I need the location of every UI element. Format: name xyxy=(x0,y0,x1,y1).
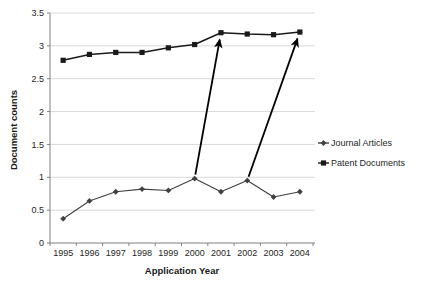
y-tick-label: 1.5 xyxy=(31,140,44,150)
y-tick-label: 3 xyxy=(39,41,44,51)
data-point-marker xyxy=(87,52,92,57)
x-tick-label: 1995 xyxy=(53,248,73,258)
data-point-marker xyxy=(61,58,66,63)
x-axis-title: Application Year xyxy=(145,265,220,276)
data-point-marker xyxy=(245,31,250,36)
data-point-marker xyxy=(271,32,276,37)
chart-canvas: 00.511.522.533.5 19951996199719981999200… xyxy=(0,0,424,292)
data-point-marker xyxy=(218,30,223,35)
data-point-marker xyxy=(297,29,302,34)
y-axis-title: Document counts xyxy=(8,90,19,170)
x-tick-label: 2002 xyxy=(237,248,257,258)
data-point-marker xyxy=(113,50,118,55)
x-tick-label: 1999 xyxy=(158,248,178,258)
y-tick-label: 3.5 xyxy=(31,8,44,18)
data-point-marker xyxy=(192,42,197,47)
data-point-marker xyxy=(166,45,171,50)
y-tick-label: 1 xyxy=(39,172,44,182)
x-tick-label: 2001 xyxy=(211,248,231,258)
y-tick-label: 2 xyxy=(39,107,44,117)
y-tick-label: 2.5 xyxy=(31,74,44,84)
x-tick-label: 1997 xyxy=(106,248,126,258)
x-tick-label: 2003 xyxy=(264,248,284,258)
x-tick-label: 1998 xyxy=(132,248,152,258)
x-tick-label: 2004 xyxy=(290,248,310,258)
data-point-marker xyxy=(139,50,144,55)
legend-label: Journal Articles xyxy=(331,138,393,148)
legend-label: Patent Documents xyxy=(331,158,406,168)
data-point-marker xyxy=(321,160,326,165)
line-chart: 00.511.522.533.5 19951996199719981999200… xyxy=(0,0,424,292)
y-tick-label: 0.5 xyxy=(31,205,44,215)
x-tick-label: 1996 xyxy=(79,248,99,258)
y-tick-label: 0 xyxy=(39,238,44,248)
legend-item[interactable]: Patent Documents xyxy=(318,158,406,168)
x-tick-label: 2000 xyxy=(185,248,205,258)
